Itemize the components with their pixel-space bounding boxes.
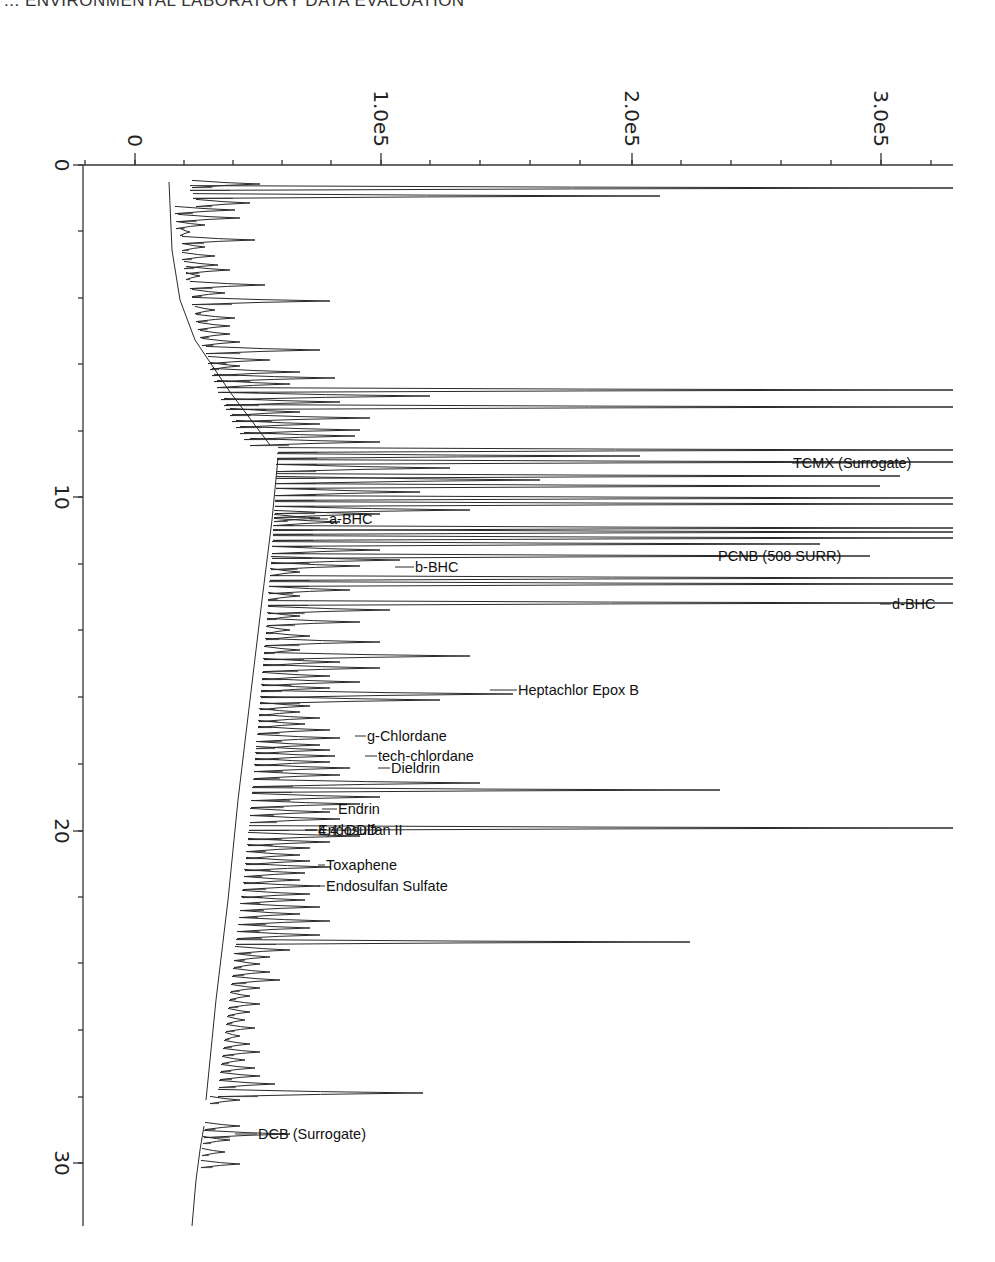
- peak: [228, 1008, 250, 1015]
- peak-label: PCNB (508 SURR): [718, 548, 841, 564]
- peak: [236, 940, 690, 945]
- response-tick-label: 2.0e5: [620, 90, 644, 147]
- peak-label: b-BHC: [415, 559, 459, 575]
- time-tick-label: 20: [50, 818, 74, 843]
- peak: [275, 502, 953, 507]
- peak: [275, 496, 953, 501]
- peak: [192, 297, 330, 304]
- peak: [193, 194, 660, 199]
- peak: [198, 322, 230, 329]
- peak: [267, 618, 360, 625]
- peak: [268, 606, 390, 613]
- peak: [226, 1024, 255, 1031]
- peak-label: Heptachlor Epox B: [518, 682, 639, 698]
- peak: [278, 448, 953, 453]
- peak: [230, 992, 250, 999]
- peak-label: DCB (Surrogate): [258, 1126, 366, 1142]
- peak: [221, 392, 430, 399]
- peak: [255, 758, 330, 765]
- peak: [248, 838, 330, 845]
- peak: [180, 228, 190, 235]
- peak-label: Endosulfan II: [318, 822, 403, 838]
- peak: [250, 808, 330, 815]
- peak: [252, 788, 720, 793]
- response-tick-label: 3.0e5: [869, 90, 893, 147]
- peak-label: Endosulfan Sulfate: [326, 878, 448, 894]
- peak: [243, 882, 320, 889]
- peak: [214, 374, 335, 381]
- baseline: [206, 458, 278, 1100]
- peak: [221, 1064, 255, 1071]
- peak: [235, 946, 290, 953]
- peak: [232, 976, 280, 983]
- baseline: [192, 1126, 204, 1226]
- peak: [252, 793, 380, 800]
- peak: [264, 652, 470, 659]
- peak: [261, 690, 513, 697]
- peak: [256, 746, 330, 753]
- peak: [227, 1016, 245, 1023]
- peak: [242, 890, 310, 897]
- peak: [238, 924, 310, 931]
- peak: [192, 289, 225, 296]
- response-tick-label: 0: [123, 134, 147, 147]
- peak: [195, 306, 215, 313]
- peak: [277, 454, 640, 459]
- peak: [240, 426, 360, 433]
- peak: [272, 542, 820, 547]
- peak: [263, 664, 380, 671]
- peak: [222, 1056, 245, 1063]
- peak: [210, 1096, 240, 1103]
- peak: [196, 314, 235, 321]
- peak: [182, 236, 255, 243]
- peak: [201, 1160, 240, 1167]
- peak: [217, 380, 290, 387]
- peak: [254, 764, 350, 771]
- peak-label: TCMX (Surrogate): [793, 455, 911, 471]
- peak: [196, 199, 250, 206]
- peak: [231, 984, 260, 991]
- peak: [200, 330, 230, 337]
- chromatogram-chart: 01.0e52.0e53.0e50102030 TCMX (Surrogate)…: [0, 0, 995, 1262]
- peak-label: g-Chlordane: [367, 728, 447, 744]
- peak: [272, 546, 380, 553]
- peak: [241, 896, 305, 903]
- peak: [244, 869, 305, 876]
- peak: [254, 771, 340, 778]
- peak: [175, 206, 235, 213]
- time-tick-label: 30: [50, 1150, 74, 1175]
- peak: [232, 414, 370, 421]
- peak: [273, 530, 953, 535]
- peak: [182, 252, 215, 259]
- peak: [234, 953, 270, 960]
- peak-label: Toxaphene: [326, 857, 397, 873]
- peak: [269, 582, 953, 587]
- peak: [269, 586, 350, 593]
- peak-label: d-BHC: [892, 596, 936, 612]
- peak: [219, 1080, 275, 1087]
- peak-label: a-BHC: [329, 511, 373, 527]
- peak: [255, 752, 335, 759]
- chromatogram-trace: [169, 180, 953, 1226]
- peak: [192, 180, 260, 187]
- time-tick-label: 10: [50, 484, 74, 509]
- peak: [253, 779, 480, 786]
- peak: [237, 931, 320, 938]
- peak: [247, 844, 310, 851]
- peak: [260, 696, 440, 703]
- peak: [276, 488, 420, 495]
- response-tick-label: 1.0e5: [369, 90, 393, 147]
- peak: [224, 1040, 250, 1047]
- peak: [218, 388, 953, 393]
- peak: [258, 726, 330, 733]
- peak: [271, 562, 360, 569]
- peak: [220, 1072, 260, 1079]
- peak: [205, 1122, 240, 1129]
- peak: [262, 678, 360, 685]
- peak: [223, 1048, 260, 1055]
- peak: [276, 464, 450, 471]
- peak: [190, 186, 953, 191]
- peak: [240, 903, 320, 910]
- peak: [233, 968, 270, 975]
- peak: [229, 1000, 260, 1007]
